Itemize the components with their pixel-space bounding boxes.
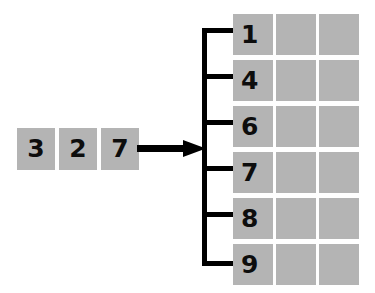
table-row-1-cell-1[interactable]	[276, 60, 316, 101]
table-row-2-cell-2[interactable]	[319, 106, 359, 147]
bucket-bracket	[196, 8, 238, 286]
table-row-0-cell-1[interactable]	[276, 14, 316, 55]
table-row-4-cell-0-value: 8	[241, 206, 258, 231]
table-row-5-cell-2[interactable]	[319, 244, 359, 285]
table-row-3-cell-1[interactable]	[276, 152, 316, 193]
table-row-3-cell-0[interactable]: 7	[233, 152, 273, 193]
bracket-icon	[196, 8, 238, 286]
input-cell-2-value: 7	[101, 136, 139, 161]
input-cell-2[interactable]: 7	[101, 128, 139, 170]
input-cell-1-value: 2	[59, 136, 97, 161]
input-cell-1[interactable]: 2	[59, 128, 97, 170]
table-row-4-cell-0[interactable]: 8	[233, 198, 273, 239]
table-row-0-cell-0-value: 1	[241, 22, 258, 47]
table-row-0-cell-0[interactable]: 1	[233, 14, 273, 55]
table-row-4-cell-2[interactable]	[319, 198, 359, 239]
table-row-2-cell-0[interactable]: 6	[233, 106, 273, 147]
table-row-1-cell-2[interactable]	[319, 60, 359, 101]
table-row-5-cell-1[interactable]	[276, 244, 316, 285]
diagram-canvas: 3 2 7 1	[0, 0, 375, 293]
table-row-1-cell-0[interactable]: 4	[233, 60, 273, 101]
input-cell-0-value: 3	[17, 136, 55, 161]
table-row-2-cell-1[interactable]	[276, 106, 316, 147]
table-row-0-cell-2[interactable]	[319, 14, 359, 55]
table-row-1-cell-0-value: 4	[241, 68, 258, 93]
input-cell-0[interactable]: 3	[17, 128, 55, 170]
table-row-5-cell-0[interactable]: 9	[233, 244, 273, 285]
table-row-3-cell-2[interactable]	[319, 152, 359, 193]
table-row-4-cell-1[interactable]	[276, 198, 316, 239]
table-row-2-cell-0-value: 6	[241, 114, 258, 139]
table-row-5-cell-0-value: 9	[241, 252, 258, 277]
table-row-3-cell-0-value: 7	[241, 160, 258, 185]
